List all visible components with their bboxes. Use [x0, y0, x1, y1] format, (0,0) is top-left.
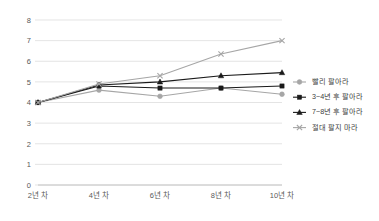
legend-label: 3~4년 후 팔아라: [312, 92, 363, 101]
chart-canvas: 012345678 2년 차4년 차6년 차8년 차10년 차 빨리 팔아라3~…: [0, 0, 379, 221]
data-point-square-marker: [280, 84, 284, 88]
x-axis-tick-label: 2년 차: [28, 190, 48, 200]
gridlines-group: [35, 20, 282, 185]
data-point-square-marker: [158, 86, 162, 90]
legend-item-1[interactable]: 빨리 팔아라: [293, 77, 349, 86]
data-point-square-marker: [219, 86, 223, 90]
y-axis-tick-label: 4: [27, 98, 31, 107]
legend-label: 빨리 팔아라: [312, 77, 349, 86]
x-axis-tick-label: 4년 차: [89, 190, 109, 200]
x-axis-tick-label: 8년 차: [211, 190, 231, 200]
x-axis-tick-labels: 2년 차4년 차6년 차8년 차10년 차: [28, 190, 294, 200]
chart-legend: 빨리 팔아라3~4년 후 팔아라7~8년 후 팔아라절대 팔지 마라: [293, 77, 363, 132]
data-point-square-marker: [297, 95, 301, 99]
series-group: [35, 38, 285, 105]
data-point-circle-marker: [158, 94, 163, 99]
y-axis-tick-label: 8: [27, 16, 31, 25]
y-axis-tick-label: 3: [27, 119, 31, 128]
legend-item-4[interactable]: 절대 팔지 마라: [293, 123, 358, 132]
line-chart: 012345678 2년 차4년 차6년 차8년 차10년 차 빨리 팔아라3~…: [0, 0, 379, 221]
y-axis-tick-labels: 012345678: [27, 16, 31, 190]
series-line: [38, 41, 282, 103]
legend-item-2[interactable]: 3~4년 후 팔아라: [293, 92, 363, 101]
x-axis-tick-label: 10년 차: [270, 190, 294, 200]
legend-label: 7~8년 후 팔아라: [312, 107, 363, 116]
y-axis-tick-label: 6: [27, 57, 31, 66]
data-point-circle-marker: [97, 88, 102, 93]
y-axis-tick-label: 0: [27, 181, 31, 190]
x-axis-tick-label: 6년 차: [150, 190, 170, 200]
y-axis-tick-label: 1: [27, 160, 31, 169]
data-point-circle-marker: [280, 92, 285, 97]
y-axis-tick-label: 5: [27, 78, 31, 87]
legend-label: 절대 팔지 마라: [312, 123, 358, 132]
y-axis-tick-label: 7: [27, 36, 31, 45]
data-point-circle-marker: [297, 80, 302, 85]
y-axis-tick-label: 2: [27, 140, 31, 149]
legend-item-3[interactable]: 7~8년 후 팔아라: [293, 107, 363, 116]
